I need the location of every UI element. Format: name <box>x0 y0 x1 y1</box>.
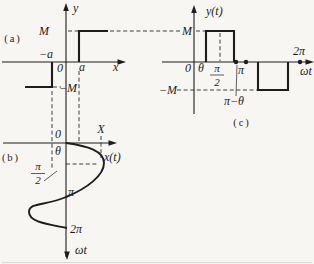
panel-b-pi-over-2-leader-line <box>44 171 57 181</box>
panel-c-tag: (c) <box>233 117 251 129</box>
panel-a-curve-negative-step <box>25 62 52 87</box>
panel-c-wt-axis-label: ωt <box>300 64 312 78</box>
panel-b-frac-numerator: π <box>35 160 41 172</box>
panel-c-pi-minus-theta-label: π−θ <box>224 94 244 108</box>
panel-c-M-label: M <box>181 24 193 38</box>
panel-b-wt-axis-arrow-icon <box>64 252 70 261</box>
panel-a-y-axis-arrow-icon <box>63 3 69 11</box>
panel-b-wt-axis-label: ωt <box>75 243 87 257</box>
panel-a-y-axis-label: y <box>72 1 79 15</box>
panel-c-negative-pulse <box>258 62 288 90</box>
panel-c-signal-label: y(t) <box>205 4 223 18</box>
panel-b-x-axis-arrow-icon <box>109 140 118 146</box>
panel-c-pi-label: π <box>238 63 245 77</box>
panel-c-frac-numerator: π <box>214 62 220 74</box>
panel-a-curve-positive-step <box>79 31 108 62</box>
panel-b-signal-label: x(t) <box>103 150 121 164</box>
panel-a-neg-a-label: −a <box>39 47 53 61</box>
panel-a-origin-label: 0 <box>57 61 63 75</box>
panel-b-pi-label: π <box>68 185 75 199</box>
panel-a-a-label: a <box>79 60 85 74</box>
panel-b-amplitude-label: X <box>96 122 105 136</box>
panel-c: π 2 (c) y(t) M −M 0 θ π π−θ 2π ωt <box>159 4 314 129</box>
panel-c-origin-label: 0 <box>185 61 191 75</box>
figure-canvas: (a) y x 0 a −a M −M π 2 (b) 0 θ X x(t) π… <box>0 0 314 264</box>
panel-a: (a) y x 0 a −a M −M <box>2 1 180 257</box>
panel-a-tag: (a) <box>4 33 22 45</box>
panel-c-two-pi-label: 2π <box>293 44 306 58</box>
panel-c-theta-label: θ <box>198 61 204 75</box>
panel-b-frac-denominator: 2 <box>35 174 41 186</box>
panel-c-dot-pi <box>244 60 248 64</box>
panel-b-two-pi-label: 2π <box>70 222 83 236</box>
panel-c-neg-M-label: −M <box>159 83 178 97</box>
panel-a-neg-M-label: −M <box>59 81 78 95</box>
panel-a-M-label: M <box>38 24 50 38</box>
panel-b-origin-label: 0 <box>55 127 61 141</box>
panel-a-x-axis-label: x <box>112 60 119 74</box>
panel-c-pi-minus-theta-leader-line <box>236 65 237 96</box>
panel-b-tag: (b) <box>2 152 20 164</box>
panel-b: π 2 (b) 0 θ X x(t) π 2π ωt <box>2 122 121 260</box>
panel-a-x-axis-arrow-icon <box>118 59 127 65</box>
panel-c-y-axis-arrow-icon <box>191 5 197 13</box>
panel-b-theta-label: θ <box>55 144 61 158</box>
panel-c-frac-denominator: 2 <box>214 76 220 88</box>
